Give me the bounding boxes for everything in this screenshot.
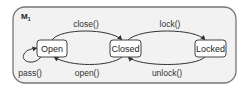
- label-lock: lock(): [160, 19, 181, 29]
- state-open: Open: [37, 40, 67, 57]
- state-label-closed: Closed: [111, 44, 139, 54]
- state-closed: Closed: [110, 40, 141, 57]
- state-locked: Locked: [195, 40, 226, 57]
- label-unlock: unlock(): [152, 68, 182, 78]
- label-pass: pass(): [18, 68, 42, 78]
- label-open: open(): [75, 68, 100, 78]
- label-close: close(): [73, 19, 99, 29]
- state-label-open: Open: [41, 44, 63, 54]
- state-label-locked: Locked: [196, 44, 225, 54]
- state-diagram: M1 close() open() lock() unlock() pass()…: [0, 0, 249, 90]
